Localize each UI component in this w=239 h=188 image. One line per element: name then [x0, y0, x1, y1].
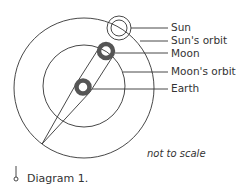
- label-moon: Moon: [171, 47, 200, 59]
- earth-body: [77, 81, 90, 94]
- label-moons-orbit: Moon's orbit: [171, 65, 236, 77]
- caption-marker-dot: [14, 177, 18, 181]
- suns-orbit-circle: [14, 18, 154, 158]
- apex-line-3: [76, 48, 99, 84]
- label-suns-orbit: Sun's orbit: [171, 34, 227, 46]
- label-sun: Sun: [171, 21, 191, 33]
- not-to-scale-note: not to scale: [147, 148, 206, 159]
- diagram-caption: Diagram 1.: [27, 172, 88, 185]
- apex-line-1: [42, 84, 76, 144]
- sun-inner-circle: [111, 20, 127, 36]
- label-earth: Earth: [171, 82, 199, 94]
- apex-line-4: [90, 56, 113, 92]
- orbit-diagram: [0, 0, 239, 188]
- apex-line-2: [42, 92, 90, 144]
